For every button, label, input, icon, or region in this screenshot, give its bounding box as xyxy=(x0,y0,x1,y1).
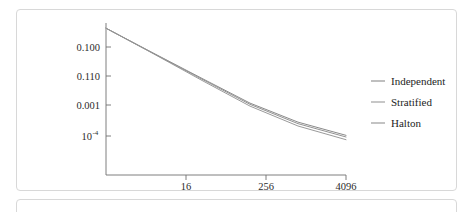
legend-label-independent: Independent xyxy=(391,75,445,87)
series-line-halton xyxy=(106,28,346,137)
y-tick-label-0: 0.100 xyxy=(76,42,100,53)
legend-item-halton[interactable]: Halton xyxy=(371,117,421,129)
chart-legend: Independent Stratified Halton xyxy=(371,75,445,129)
screenshot-stage: 0.100 0.110 0.001 10 -4 16 256 4096 xyxy=(0,0,473,212)
series-line-stratified xyxy=(106,28,346,139)
x-tick-label-1: 256 xyxy=(258,181,274,191)
y-tick-label-1: 0.110 xyxy=(77,71,100,82)
next-card-partial xyxy=(16,199,457,212)
legend-label-halton: Halton xyxy=(391,117,421,129)
y-tick-label-2: 0.001 xyxy=(76,100,100,111)
x-tick-label-2: 4096 xyxy=(336,181,357,191)
legend-label-stratified: Stratified xyxy=(391,96,432,108)
y-tick-label-3-base: 10 xyxy=(82,131,93,142)
series-line-independent xyxy=(106,28,346,135)
y-tick-label-3-exponent: -4 xyxy=(93,129,99,137)
legend-item-stratified[interactable]: Stratified xyxy=(371,96,432,108)
legend-item-independent[interactable]: Independent xyxy=(371,75,445,87)
x-tick-label-0: 16 xyxy=(181,181,192,191)
chart-svg: 0.100 0.110 0.001 10 -4 16 256 4096 xyxy=(16,9,457,191)
series-group xyxy=(106,28,346,139)
convergence-plot: 0.100 0.110 0.001 10 -4 16 256 4096 xyxy=(16,9,457,191)
